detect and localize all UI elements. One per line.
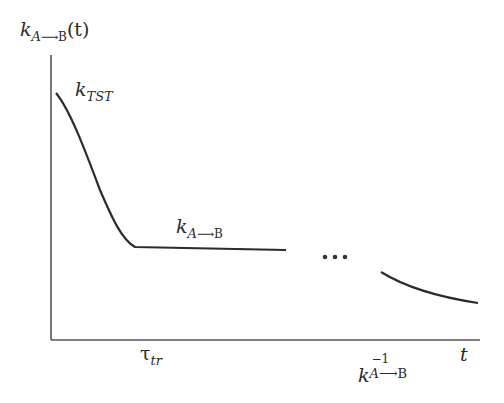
ellipsis-dot — [333, 255, 338, 260]
y-axis-label: kA⟶B(t) — [20, 18, 89, 40]
y-label-sub: A — [32, 29, 41, 44]
tst-k: k — [75, 78, 87, 100]
inverse-target: B — [398, 366, 408, 381]
tst-sub: TST — [87, 89, 113, 104]
inverse-sub: A — [370, 366, 379, 381]
rate-diagram — [0, 0, 504, 403]
tau-symbol: τ — [140, 342, 151, 364]
tst-label: kTST — [75, 78, 113, 100]
plateau-label: kA⟶B — [176, 215, 223, 237]
y-label-arg: (t) — [67, 18, 89, 40]
plateau-k: k — [176, 215, 188, 237]
inverse-rate-tick-label: k−1A⟶B — [358, 362, 416, 386]
y-label-k: k — [20, 18, 32, 40]
x-axis-label: t — [460, 343, 468, 365]
rate-curve-tst-decay — [56, 93, 286, 250]
inverse-arrow: ⟶ — [379, 366, 398, 381]
plateau-arrow: ⟶ — [197, 227, 214, 241]
plateau-sub: A — [188, 226, 197, 241]
y-label-arrow: ⟶ — [41, 30, 58, 44]
rate-curve-long-time — [381, 272, 478, 303]
inverse-k: k — [358, 364, 370, 386]
plateau-target: B — [214, 227, 223, 241]
inverse-sup: −1 — [372, 352, 390, 366]
ellipsis-dot — [343, 255, 348, 260]
tau-sub: tr — [151, 353, 162, 368]
tau-tr-tick-label: τtr — [140, 342, 162, 364]
ellipsis-dot — [323, 255, 328, 260]
y-label-target: B — [58, 30, 67, 44]
